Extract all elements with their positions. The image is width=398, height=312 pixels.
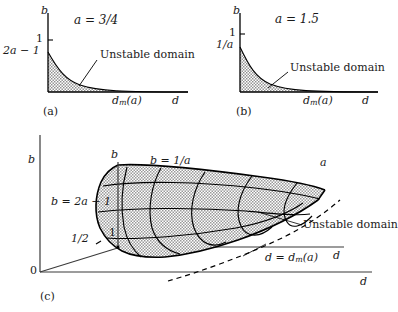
panel-c-tick-one-label: 1 xyxy=(109,227,116,238)
panel-a-x-tick-label: dm(a) xyxy=(112,95,142,107)
panel-a-x-tick-d: d xyxy=(112,94,119,107)
panel-b-x-axis-label: d xyxy=(362,95,369,106)
panel-b-param-label: a = 1.5 xyxy=(275,13,319,25)
panel-c-unstable-domain-label: Unstable domain xyxy=(303,219,398,230)
panel-c-tick-half-label: 1/2 xyxy=(71,233,89,244)
panel-b-x-tick-arg: (a) xyxy=(318,94,333,107)
panel-b-x-tick-d: d xyxy=(303,94,310,107)
panel-c-surface-top-label: b = 1/a xyxy=(150,155,191,166)
panel-c-outer-y-axis-label: b xyxy=(28,154,35,165)
panel-b-leader-line xyxy=(268,72,288,88)
panel-c-inner-x-axis-label: d xyxy=(333,250,340,261)
panel-a-y-intercept-label: 2a − 1 xyxy=(3,45,40,56)
panel-b-caption: (b) xyxy=(236,106,252,117)
panel-b-x-tick-label: dm(a) xyxy=(303,95,333,107)
panel-c-dashed-arg: (a) xyxy=(303,251,318,264)
panel-c-outer-origin-label: 0 xyxy=(30,265,37,276)
panel-c-dashed-sub: m xyxy=(295,255,303,264)
panel-b-y-tick-one: 1 xyxy=(229,27,236,38)
panel-a-x-tick-sub: m xyxy=(119,98,127,107)
panel-c-tick-half xyxy=(96,241,101,244)
panel-c-dashed-leader xyxy=(243,244,266,256)
panel-c-outer-x-axis-label: d xyxy=(360,276,367,287)
panel-c-caption: (c) xyxy=(40,291,55,302)
panel-a-unstable-domain-label: Unstable domain xyxy=(100,49,195,60)
panel-a-y-axis-label: b xyxy=(41,5,48,16)
panel-a-leader-line xyxy=(79,60,97,86)
panel-c-dashed-eq: = d xyxy=(276,251,296,264)
panel-b-unstable-domain-label: Unstable domain xyxy=(290,62,385,73)
panel-a-param-label: a = 3/4 xyxy=(74,14,118,26)
panel-b-y-intercept-label: 1/a xyxy=(216,39,233,50)
panel-c-dashed-d: d xyxy=(265,251,272,264)
panel-c-surface-left-label: b = 2a − 1 xyxy=(51,196,111,207)
panel-a-y-tick-one: 1 xyxy=(36,33,43,44)
panel-a-x-axis-label: d xyxy=(172,95,179,106)
panel-c-inner-origin-dot xyxy=(116,245,119,248)
panel-b-x-tick-sub: m xyxy=(310,98,318,107)
panel-c-inner-y-axis-label: b xyxy=(111,149,118,160)
panel-c-depth-axis-label: a xyxy=(320,157,327,168)
panel-a-caption: (a) xyxy=(43,106,58,117)
panel-c-dashed-curve-label: d = dm(a) xyxy=(265,252,318,264)
panel-a-x-tick-arg: (a) xyxy=(127,94,142,107)
panel-b-y-axis-label: b xyxy=(233,5,240,16)
